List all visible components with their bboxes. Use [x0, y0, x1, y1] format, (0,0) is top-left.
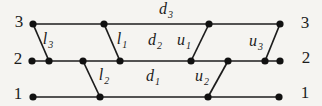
node-dot — [276, 20, 283, 27]
node-dot — [29, 20, 36, 27]
level-label-left-3: 3 — [15, 13, 24, 30]
edge-label-l1: l1 — [117, 31, 127, 50]
level-label-right-2: 2 — [302, 49, 311, 66]
edge-label-u1: u1 — [177, 32, 191, 51]
node-dot — [100, 20, 107, 27]
node-dot — [45, 57, 52, 64]
edge-label-d2-sub: 2 — [157, 40, 162, 51]
edge-label-d3-sub: 3 — [168, 9, 173, 20]
edge-label-u3-sub: 3 — [258, 41, 263, 52]
node-dot — [29, 93, 36, 100]
edge-label-l3-base: l — [43, 30, 47, 47]
edge-label-d3-base: d — [159, 0, 167, 17]
node-dot — [205, 20, 212, 27]
node-dot — [224, 57, 231, 64]
edge-label-u3: u3 — [249, 33, 263, 52]
edge-label-u3-base: u — [249, 32, 257, 49]
level-label-right-1: 1 — [301, 84, 310, 101]
edge-label-u2: u2 — [195, 68, 209, 87]
node-dot — [28, 57, 35, 64]
level-label-left-2: 2 — [14, 50, 23, 67]
edge-label-l2: l2 — [99, 67, 109, 86]
edge-label-l1-base: l — [117, 30, 121, 47]
node-dot — [275, 93, 282, 100]
level-label-left-1: 1 — [14, 85, 23, 102]
node-dot — [96, 93, 103, 100]
edge-label-d1-base: d — [146, 67, 154, 84]
edge-label-u2-base: u — [195, 67, 203, 84]
edge-l2 — [83, 61, 100, 97]
edge-label-l1-sub: 1 — [122, 39, 127, 50]
node-dot — [276, 57, 283, 64]
edge-label-l2-sub: 2 — [104, 75, 109, 86]
edge-label-l2-base: l — [99, 66, 103, 83]
edge-label-d1: d1 — [146, 68, 160, 87]
edge-label-l3-sub: 3 — [48, 39, 53, 50]
edge-label-u1-sub: 1 — [186, 40, 191, 51]
node-dot — [261, 57, 268, 64]
edge-label-d2-base: d — [148, 31, 156, 48]
node-dot — [204, 93, 211, 100]
edge-u1 — [191, 24, 209, 61]
edge-label-d1-sub: 1 — [155, 76, 160, 87]
node-dot — [79, 57, 86, 64]
edge-label-d3: d3 — [159, 1, 173, 20]
wire-transition-diagram: 3 2 1 3 2 1 d3 l3 l1 d2 u1 u3 l2 d1 u2 — [0, 0, 322, 106]
level-label-right-3: 3 — [301, 14, 310, 31]
edge-label-l3: l3 — [43, 31, 53, 50]
edge-label-u2-sub: 2 — [204, 76, 209, 87]
edge-u3 — [265, 24, 280, 61]
node-dot — [116, 57, 123, 64]
edge-label-d2: d2 — [148, 32, 162, 51]
edge-label-u1-base: u — [177, 31, 185, 48]
edge-u2 — [208, 61, 228, 97]
node-dot — [187, 57, 194, 64]
